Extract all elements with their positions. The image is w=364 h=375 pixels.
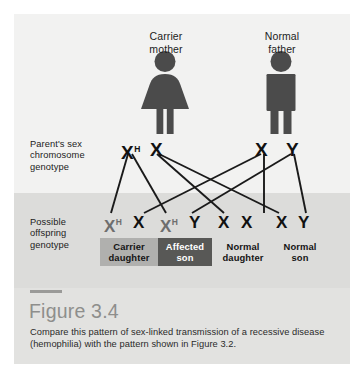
- row-label-parent-genotype: Parent's sex chromosome genotype: [30, 139, 106, 173]
- female-figure-icon: [141, 51, 189, 134]
- allele-letter: X: [255, 139, 268, 160]
- offspring-1-allele-1: XH: [104, 214, 122, 235]
- offspring-2-allele-1: XH: [160, 214, 178, 235]
- allele-letter: X: [276, 213, 287, 232]
- offspring-label-carrier-daughter: Carrier daughter: [100, 238, 158, 266]
- offspring-label-normal-son: Normal son: [272, 238, 328, 266]
- allele-letter: Y: [286, 139, 299, 160]
- allele-superscript: H: [116, 217, 122, 227]
- inheritance-lines: [111, 154, 306, 213]
- offspring-2-allele-2: Y: [189, 214, 200, 231]
- line-motherX-to-child4: [159, 154, 279, 213]
- caption-rule: [30, 290, 62, 293]
- offspring-label-normal-daughter: Normal daughter: [212, 238, 274, 266]
- offspring-4-allele-1: X: [276, 214, 287, 231]
- figure-caption: Compare this pattern of sex-linked trans…: [30, 326, 330, 351]
- allele-letter: X: [133, 213, 144, 232]
- male-figure-icon: [267, 51, 296, 134]
- allele-letter: X: [150, 139, 163, 160]
- offspring-3-allele-2: X: [241, 214, 252, 231]
- allele-superscript: H: [134, 144, 140, 154]
- line-fatherY-to-child4: [294, 154, 306, 213]
- line-motherX-to-child3: [157, 154, 224, 213]
- parent-allele-father-2: Y: [286, 140, 299, 159]
- allele-letter: X: [218, 213, 229, 232]
- parent-title-mother: Carrier mother: [126, 30, 206, 55]
- allele-letter: X: [121, 142, 134, 163]
- line-fatherX-to-child1: [144, 154, 261, 213]
- parent-title-father: Normal father: [242, 30, 322, 55]
- allele-letter: Y: [298, 213, 309, 232]
- offspring-1-allele-2: X: [133, 214, 144, 231]
- parent-allele-father-1: X: [255, 140, 268, 159]
- allele-letter: Y: [189, 213, 200, 232]
- allele-superscript: H: [172, 217, 178, 227]
- offspring-3-allele-1: X: [218, 214, 229, 231]
- figure-number: Figure 3.4: [29, 300, 119, 322]
- allele-letter: X: [160, 217, 171, 236]
- row-label-offspring-genotype: Possible offspring genotype: [30, 217, 106, 251]
- offspring-label-affected-son: Affected son: [158, 238, 212, 266]
- figure-card: Carrier mother Normal father Parent's se…: [14, 14, 350, 364]
- offspring-4-allele-2: Y: [298, 214, 309, 231]
- parent-allele-mother-2: X: [150, 140, 163, 159]
- parent-allele-mother-1: XH: [121, 140, 140, 162]
- allele-letter: X: [241, 213, 252, 232]
- allele-letter: X: [104, 217, 115, 236]
